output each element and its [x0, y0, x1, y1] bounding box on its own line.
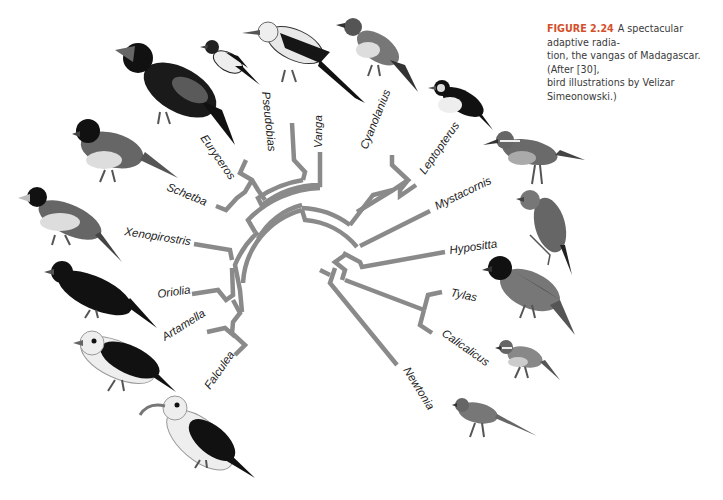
label-xenopirostris: Xenopirostris — [123, 225, 192, 248]
label-falculea: Falculea — [202, 349, 237, 391]
falculea-branch — [233, 334, 245, 355]
taxon-labels: Falculea Artamella Oriolia Xenopirostris… — [123, 87, 498, 411]
label-vanga: Vanga — [312, 115, 324, 148]
schetba-bird — [72, 119, 178, 182]
schetba-branch — [216, 180, 252, 210]
mystacornis-bird — [483, 131, 585, 184]
phylogeny-svg: Falculea Artamella Oriolia Xenopirostris… — [0, 0, 723, 500]
leptopterus-bird — [428, 80, 493, 130]
vanga-branch — [262, 152, 320, 205]
hypositta-bird — [516, 190, 572, 275]
label-oriolia: Oriolia — [157, 283, 192, 300]
bird-illustrations — [18, 18, 585, 481]
falculea-bird — [140, 396, 255, 481]
label-leptopterus: Leptopterus — [417, 119, 462, 176]
cyanolanius-bird — [336, 18, 418, 92]
label-newtonia: Newtonia — [401, 365, 437, 412]
label-pseudobias: Pseudobias — [260, 91, 278, 152]
artamella-bird — [73, 327, 176, 393]
xenopirostris-branch — [194, 244, 232, 260]
calicalicus-branch — [420, 310, 432, 333]
tree-branches — [192, 123, 445, 365]
tylas-branch — [424, 292, 442, 310]
label-tylas: Tylas — [450, 286, 479, 303]
label-hypositta: Hypositta — [449, 237, 498, 256]
oriolia-bird — [44, 261, 157, 328]
tylas-bird — [482, 256, 575, 335]
label-mystacornis: Mystacornis — [433, 174, 494, 212]
oriolia-branch — [192, 268, 233, 300]
tylas-calicalicus-branch — [345, 280, 424, 310]
artamella-branch — [207, 300, 240, 334]
newtonia-bird — [452, 398, 537, 437]
label-schetba: Schetba — [165, 181, 209, 208]
label-artamella: Artamella — [159, 307, 207, 343]
pseudobias-branch — [292, 123, 305, 180]
mystacornis-branch — [360, 211, 430, 246]
label-calicalicus: Calicalicus — [440, 327, 492, 368]
newtonia-branch — [330, 268, 397, 365]
figure: FIGURE 2.24A spectacular adaptive radia-… — [0, 0, 723, 500]
label-cyanolanius: Cyanolanius — [358, 87, 393, 150]
pseudobias-bird — [200, 40, 260, 85]
xenopirostris-bird — [18, 187, 122, 262]
calicalicus-bird — [495, 340, 560, 380]
hypositta-branch — [343, 252, 445, 267]
